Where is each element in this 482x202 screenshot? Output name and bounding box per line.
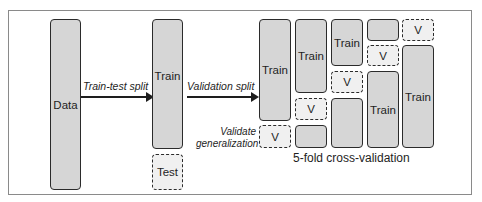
fold4-val: V: [367, 45, 399, 66]
validation-split-arrow: [187, 96, 252, 98]
data-box: Data: [50, 19, 81, 190]
fold3-train-small: [331, 98, 363, 148]
fold3-train: Train: [331, 19, 363, 66]
test-label: Test: [157, 166, 178, 178]
data-label: Data: [53, 99, 77, 111]
fold3-train-label: Train: [334, 37, 360, 49]
fold5-train-label: Train: [405, 91, 431, 103]
fold2-val-label: V: [307, 103, 315, 115]
fold1-train-label: Train: [262, 64, 288, 76]
fold1-val-label: V: [271, 131, 279, 143]
fold2-train-small: [295, 125, 327, 148]
fold4-train: Train: [367, 71, 399, 148]
fold1-val: V: [259, 125, 291, 148]
train-box: Train: [152, 19, 183, 149]
fold5-val: V: [402, 19, 434, 41]
validate-generalization-text: Validate generalization: [196, 126, 258, 149]
fold4-train-small: [367, 19, 399, 41]
cv-caption: 5-fold cross-validation: [293, 151, 410, 165]
fold5-val-label: V: [414, 24, 422, 36]
fold3-val: V: [331, 71, 363, 93]
fold4-val-label: V: [379, 50, 387, 62]
fold3-val-label: V: [343, 76, 351, 88]
fold5-train: Train: [402, 45, 434, 148]
train-label: Train: [155, 70, 181, 82]
validate-generalization-note: Validate generalization: [196, 126, 256, 150]
fold4-train-label: Train: [370, 104, 396, 116]
fold2-train: Train: [295, 19, 327, 93]
train-test-split-label: Train-test split: [83, 80, 148, 92]
fold1-train: Train: [259, 19, 291, 121]
validation-split-label: Validation split: [187, 80, 254, 92]
fold2-train-label: Train: [298, 50, 324, 62]
test-box: Test: [152, 154, 183, 190]
train-test-split-arrow: [81, 96, 147, 98]
fold2-val: V: [295, 98, 327, 120]
